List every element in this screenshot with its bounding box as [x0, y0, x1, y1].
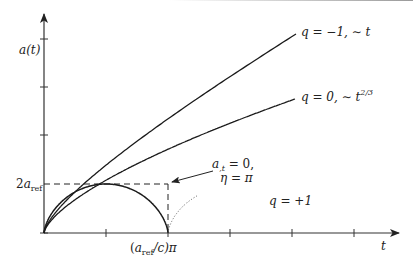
- x-marker-label: (aref/c)π: [130, 241, 178, 257]
- curve-open-universe: [44, 34, 296, 233]
- curve-flat-universe: [44, 99, 295, 233]
- axes: [40, 14, 399, 237]
- label-closed-universe: q = +1: [269, 194, 312, 208]
- annotation-line-2: η = π: [220, 171, 254, 185]
- label-open-universe: q = −1, ∼ t: [301, 25, 371, 39]
- scale-factor-diagram: a(t) t 2aref (aref/c)π a,t = 0, η = π q …: [0, 0, 413, 266]
- label-flat-universe: q = 0, ∼ t2/3: [301, 88, 373, 104]
- annotation-arrow: [172, 171, 213, 182]
- curve-closed-continuation-dotted: [168, 196, 197, 233]
- x-axis-label: t: [381, 239, 386, 253]
- y-axis-label: a(t): [19, 43, 41, 57]
- y-marker-label: 2aref: [16, 177, 43, 193]
- curve-closed-universe: [44, 184, 168, 233]
